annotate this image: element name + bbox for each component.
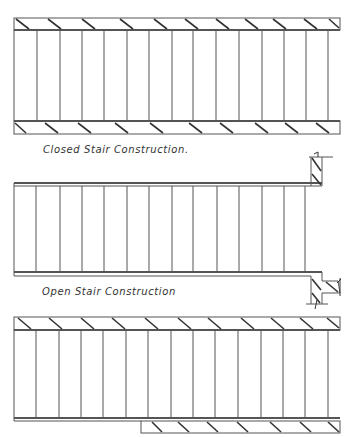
risers bbox=[14, 30, 328, 121]
stair-construction-diagrams bbox=[0, 0, 356, 437]
top-stringer bbox=[14, 317, 340, 330]
bottom-stringer-partial bbox=[14, 418, 340, 433]
partial-closed-stair-diagram bbox=[14, 317, 340, 433]
risers bbox=[14, 183, 305, 276]
wall-hatching bbox=[312, 279, 338, 303]
stringer-hatching bbox=[16, 19, 339, 29]
stringer-hatching bbox=[152, 422, 339, 432]
bottom-edge bbox=[14, 272, 322, 276]
wall-section-bottom bbox=[306, 272, 341, 309]
top-stringer bbox=[14, 18, 340, 30]
stringer-hatching bbox=[15, 123, 329, 133]
open-stair-caption: Open Stair Construction bbox=[42, 286, 176, 297]
top-edge bbox=[14, 183, 322, 186]
bottom-stringer bbox=[14, 121, 340, 134]
stringer-hatching bbox=[18, 318, 339, 329]
wall-section-top bbox=[309, 152, 333, 186]
closed-stair-diagram bbox=[14, 18, 340, 134]
risers bbox=[14, 330, 328, 421]
closed-stair-caption: Closed Stair Construction. bbox=[43, 144, 189, 155]
wall-hatching bbox=[312, 158, 321, 185]
